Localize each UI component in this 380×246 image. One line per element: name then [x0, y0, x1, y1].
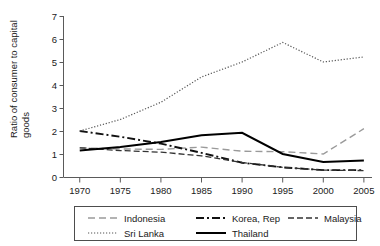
y-tick-label: 1: [52, 149, 57, 160]
series-line-indonesia: [80, 129, 364, 154]
x-axis-tick-labels: 19701975198019851990199520002005: [69, 185, 374, 196]
line-chart: Ratio of consumer to capital goods 01234…: [0, 0, 380, 246]
x-tick-label: 1990: [232, 185, 253, 196]
x-tick-label: 1970: [69, 185, 90, 196]
series-line-sri-lanka: [80, 42, 364, 131]
legend-label-thailand: Thailand: [232, 228, 268, 239]
y-axis-title: Ratio of consumer to capital goods: [8, 20, 31, 138]
legend: IndonesiaKorea, RepMalaysiaSri LankaThai…: [88, 213, 362, 239]
series-line-malaysia: [80, 148, 364, 171]
y-tick-label: 5: [52, 57, 57, 68]
y-axis-tick-labels: 01234567: [52, 11, 57, 183]
y-tick-label: 0: [52, 172, 57, 183]
legend-label-malaysia: Malaysia: [324, 213, 362, 224]
x-tick-label: 1975: [110, 185, 131, 196]
x-tick-label: 1995: [272, 185, 293, 196]
x-tick-label: 1985: [191, 185, 212, 196]
legend-label-sri-lanka: Sri Lanka: [124, 228, 165, 239]
y-tick-label: 2: [52, 126, 57, 137]
legend-label-korea-rep: Korea, Rep: [232, 213, 280, 224]
x-tick-label: 2005: [353, 185, 374, 196]
legend-box: [75, 207, 357, 241]
y-tick-label: 7: [52, 11, 57, 22]
y-axis-tick-marks: [60, 17, 64, 178]
y-tick-label: 3: [52, 103, 57, 114]
series-line-korea-rep: [80, 131, 364, 170]
legend-label-indonesia: Indonesia: [124, 213, 166, 224]
y-axis-title-line-1: Ratio of consumer to capital: [8, 20, 19, 138]
x-tick-label: 1980: [150, 185, 171, 196]
x-tick-label: 2000: [313, 185, 334, 196]
y-tick-label: 4: [52, 80, 57, 91]
chart-container: Ratio of consumer to capital goods 01234…: [0, 0, 380, 246]
y-tick-label: 6: [52, 34, 57, 45]
x-axis-tick-marks: [80, 178, 364, 183]
data-series-group: [80, 42, 364, 170]
y-axis-title-line-2: goods: [20, 112, 31, 138]
